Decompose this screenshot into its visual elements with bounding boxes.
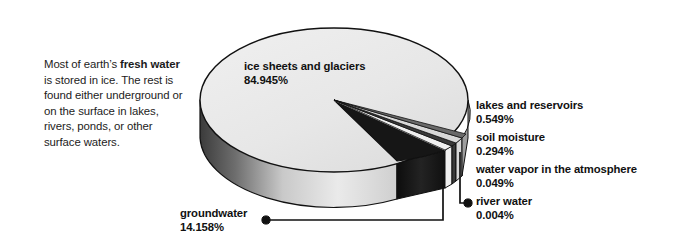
label-lakes-name: lakes and reservoirs	[476, 99, 583, 113]
label-water-vapor-in-the-atmosphere: water vapor in the atmosphere 0.049%	[476, 163, 637, 190]
label-soil-name: soil moisture	[476, 131, 545, 145]
sliver-wall-soil	[452, 143, 456, 184]
sliver-wall-lakes	[445, 146, 452, 188]
label-river-water: river water 0.004%	[476, 195, 532, 222]
label-soil-value: 0.294%	[476, 145, 545, 159]
pie-top-face	[200, 28, 468, 172]
label-ice-sheets-and-glaciers: ice sheets and glaciers 84.945%	[244, 60, 365, 87]
label-ice-value: 84.945%	[244, 74, 365, 88]
leader-dot-groundwater	[262, 216, 270, 224]
label-ice-name: ice sheets and glaciers	[244, 60, 365, 74]
label-soil-moisture: soil moisture 0.294%	[476, 131, 545, 158]
label-river-name: river water	[476, 195, 532, 209]
label-groundwater-name: groundwater	[180, 207, 247, 221]
label-river-value: 0.004%	[476, 209, 532, 223]
label-vapor-value: 0.049%	[476, 177, 637, 191]
label-vapor-name: water vapor in the atmosphere	[476, 163, 637, 177]
fresh-water-pie-figure: Most of earth’s fresh water is stored in…	[0, 0, 693, 248]
leader-dot-river-water	[464, 199, 472, 207]
label-lakes-and-reservoirs: lakes and reservoirs 0.549%	[476, 99, 583, 126]
sliver-wall-vapor	[456, 138, 462, 181]
pie-chart-graphic	[0, 0, 693, 248]
label-groundwater-value: 14.158%	[180, 221, 247, 235]
label-lakes-value: 0.549%	[476, 113, 583, 127]
label-groundwater: groundwater 14.158%	[180, 207, 247, 234]
